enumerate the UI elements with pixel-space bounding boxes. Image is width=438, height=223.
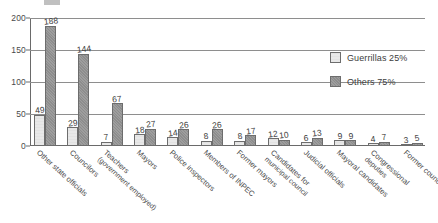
- bar-group: 1210: [268, 18, 290, 146]
- bar: 7: [379, 142, 390, 146]
- bar-value-label: 7: [381, 133, 387, 142]
- bar-value-label: 5: [415, 134, 421, 143]
- bar: 10: [279, 140, 290, 146]
- bar-value-label: 14: [168, 128, 179, 138]
- x-axis-tick-label: Teachers(government employed): [96, 148, 164, 212]
- bar: 67: [112, 103, 123, 146]
- bar: 188: [45, 26, 56, 146]
- bar-value-label: 7: [103, 133, 109, 142]
- bar-value-label: 10: [279, 131, 290, 141]
- bar-group: 49188: [34, 18, 56, 146]
- bar: 29: [67, 127, 78, 146]
- bar: 26: [212, 129, 223, 146]
- bar-group: 1426: [167, 18, 189, 146]
- legend-swatch-icon: [330, 76, 341, 87]
- bar-chart: 050100150200 491882914476718271426826817…: [0, 0, 438, 223]
- bar: 49: [34, 115, 45, 146]
- legend-item-guerrillas: Guerrillas 25%: [330, 52, 426, 63]
- x-axis-tick-label: Mayors: [135, 148, 160, 171]
- scan-artifact: [44, 0, 60, 5]
- bar-value-label: 9: [348, 131, 354, 140]
- bar: 6: [301, 142, 312, 146]
- bar: 8: [201, 141, 212, 146]
- bar-value-label: 29: [68, 118, 79, 128]
- bar-group: 1827: [134, 18, 156, 146]
- bar: 12: [268, 138, 279, 146]
- bar-value-label: 67: [112, 94, 123, 104]
- bar: 8: [234, 141, 245, 146]
- x-axis-tick-label: Councilors: [68, 148, 101, 179]
- bar: 14: [167, 137, 178, 146]
- bar-value-label: 8: [203, 132, 209, 141]
- bar-group: 817: [234, 18, 256, 146]
- chart-legend: Guerrillas 25% Others 75%: [330, 52, 426, 87]
- x-axis-tick-label: Former councilors: [402, 148, 438, 195]
- bar-value-label: 26: [179, 120, 190, 130]
- bar-value-label: 188: [43, 16, 58, 26]
- bar: 4: [368, 143, 379, 146]
- legend-item-others: Others 75%: [330, 76, 426, 87]
- bar: 144: [78, 54, 89, 146]
- bar: 26: [178, 129, 189, 146]
- bar-value-label: 49: [34, 106, 45, 116]
- bar-value-label: 3: [404, 135, 410, 144]
- bar-group: 29144: [67, 18, 89, 146]
- bar-value-label: 9: [337, 131, 343, 140]
- bar-group: 767: [101, 18, 123, 146]
- bar-value-label: 12: [268, 129, 279, 139]
- bar-value-label: 144: [76, 44, 91, 54]
- bar: 17: [245, 135, 256, 146]
- legend-item-label: Others 75%: [347, 77, 396, 87]
- bar: 9: [345, 140, 356, 146]
- bar: 18: [134, 134, 145, 146]
- legend-swatch-icon: [330, 52, 341, 63]
- bar-value-label: 18: [134, 125, 145, 135]
- x-axis-tick-labels: Other state officialsCouncilorsTeachers(…: [30, 148, 425, 223]
- legend-item-label: Guerrillas 25%: [347, 53, 407, 63]
- bar: 9: [334, 140, 345, 146]
- bar: 13: [312, 138, 323, 146]
- bar-value-label: 6: [303, 133, 309, 142]
- bar: 3: [401, 144, 412, 146]
- bar-value-label: 8: [237, 132, 243, 141]
- bar-value-label: 17: [245, 126, 256, 136]
- bar-value-label: 4: [370, 135, 376, 144]
- bar: 27: [145, 129, 156, 146]
- bar-value-label: 26: [212, 120, 223, 130]
- bar: 7: [101, 142, 112, 146]
- bar-value-label: 13: [312, 129, 323, 139]
- bar: 5: [412, 143, 423, 146]
- bar-value-label: 27: [145, 120, 156, 130]
- bar-group: 826: [201, 18, 223, 146]
- bar-group: 613: [301, 18, 323, 146]
